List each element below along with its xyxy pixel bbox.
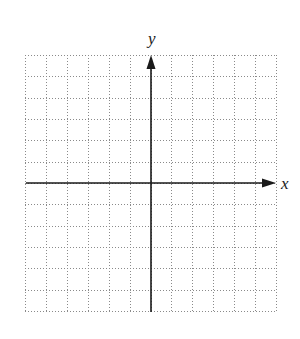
coordinate-plane: x y xyxy=(0,0,300,339)
x-axis-arrowhead-icon xyxy=(262,179,276,188)
y-axis-arrowhead-icon xyxy=(147,55,156,69)
axes xyxy=(26,55,276,312)
y-axis-label: y xyxy=(146,29,156,48)
x-axis-label: x xyxy=(280,174,289,193)
